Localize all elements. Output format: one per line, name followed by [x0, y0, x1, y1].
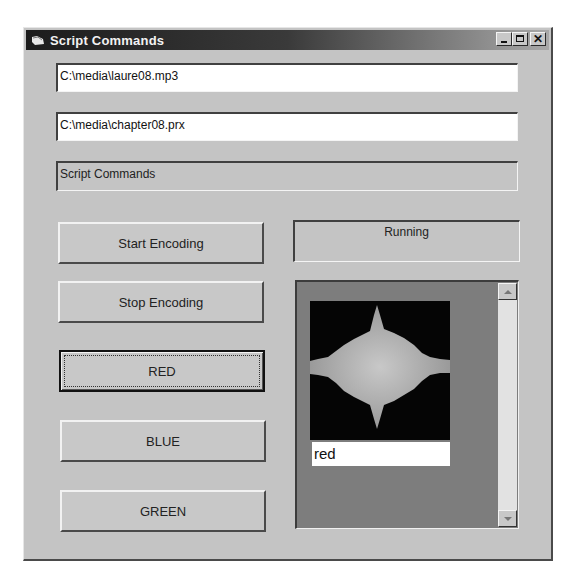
- audio-waveform-image: [310, 301, 450, 440]
- blue-button[interactable]: BLUE: [60, 420, 266, 462]
- scroll-down-button[interactable]: [498, 510, 517, 527]
- input-file-textbox[interactable]: C:\media\laure08.mp3: [56, 63, 518, 92]
- window-title: Script Commands: [50, 33, 164, 48]
- app-window-icon: [31, 34, 45, 46]
- close-button[interactable]: ✕: [530, 32, 546, 46]
- green-button[interactable]: GREEN: [60, 490, 266, 532]
- arrow-down-icon: [504, 517, 512, 521]
- script-commands-window: Script Commands ✕ C:\media\laure08.mp3 C…: [23, 27, 553, 561]
- focus-rectangle: [64, 355, 260, 387]
- scroll-up-button[interactable]: [498, 283, 517, 300]
- window-controls: ✕: [496, 32, 546, 46]
- blue-label: BLUE: [146, 434, 180, 449]
- script-commands-label: Script Commands: [56, 161, 518, 191]
- stop-encoding-button[interactable]: Stop Encoding: [58, 281, 264, 323]
- maximize-button[interactable]: [512, 32, 528, 46]
- start-encoding-label: Start Encoding: [118, 236, 203, 251]
- title-bar[interactable]: Script Commands ✕: [26, 30, 549, 50]
- preview-panel: red: [295, 280, 519, 529]
- vertical-scrollbar[interactable]: [498, 283, 517, 527]
- stop-encoding-label: Stop Encoding: [119, 295, 204, 310]
- arrow-up-icon: [504, 290, 512, 294]
- preview-caption: red: [312, 442, 450, 466]
- close-icon: ✕: [533, 32, 543, 46]
- red-button[interactable]: RED: [59, 350, 265, 392]
- green-label: GREEN: [140, 504, 186, 519]
- start-encoding-button[interactable]: Start Encoding: [58, 222, 264, 264]
- profile-file-textbox[interactable]: C:\media\chapter08.prx: [56, 112, 518, 141]
- status-label: Running: [293, 220, 520, 262]
- minimize-button[interactable]: [496, 32, 512, 46]
